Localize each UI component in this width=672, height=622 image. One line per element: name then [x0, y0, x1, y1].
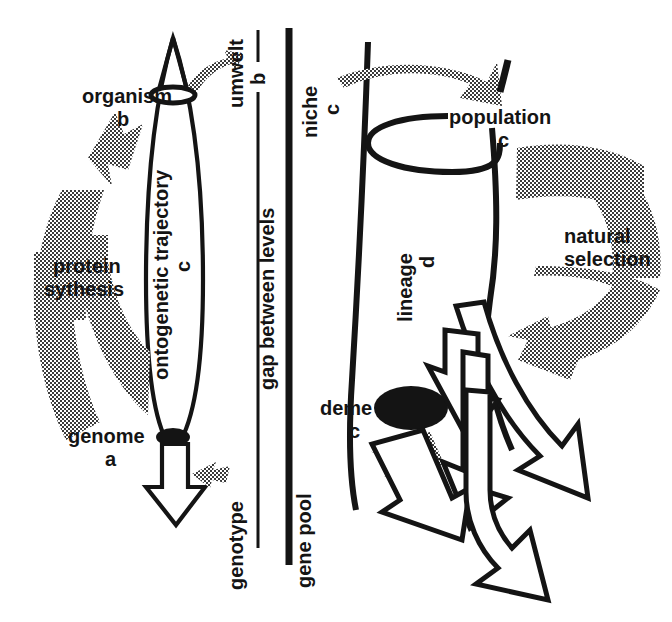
label-protein-synthesis-line2: sythesis	[44, 278, 124, 300]
label-ontogenetic-trajectory-tag: c	[172, 261, 194, 272]
label-genotype: genotype	[225, 501, 247, 590]
label-gene-pool: gene pool	[293, 494, 315, 588]
label-population: population	[449, 106, 551, 128]
halftone-arrow-icon-niche	[337, 62, 502, 106]
label-genome-tag: a	[105, 448, 117, 470]
label-protein-synthesis-line1: protein	[53, 255, 121, 277]
diagram-canvas: organism b protein sythesis genome a ont…	[0, 0, 672, 622]
label-umwelt-tag: b	[247, 73, 269, 85]
label-niche: niche	[299, 86, 321, 138]
label-ontogenetic-trajectory: ontogenetic trajectory	[150, 169, 172, 380]
label-natural-selection-line2: selection	[564, 248, 651, 270]
label-lineage-tag: d	[416, 256, 438, 268]
label-natural-selection-line1: natural	[564, 225, 631, 247]
label-umwelt: umwelt	[225, 39, 247, 108]
biological-hierarchy-diagram: organism b protein sythesis genome a ont…	[0, 0, 672, 622]
population-tick-icon	[500, 60, 508, 92]
label-deme: deme	[320, 397, 372, 419]
halftone-arrow-icon-genotype	[192, 462, 230, 488]
deme-ellipse-icon	[374, 386, 448, 430]
label-organism-tag: b	[117, 108, 129, 130]
label-gap-between-levels: gap between levels	[256, 208, 278, 390]
label-genome: genome	[68, 425, 145, 447]
label-population-tag: c	[498, 129, 509, 151]
hollow-arrow-icon-genotype	[146, 444, 205, 525]
halftone-arrow-icon-protein-synthesis-head	[88, 112, 143, 186]
label-niche-tag: c	[321, 104, 343, 115]
label-deme-tag: c	[349, 420, 360, 442]
label-lineage: lineage	[394, 253, 416, 322]
label-organism: organism	[82, 85, 172, 107]
